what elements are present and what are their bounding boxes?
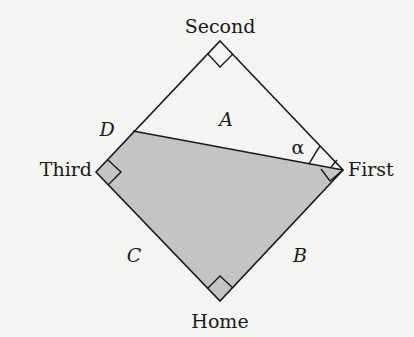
label-third: Third <box>40 158 92 180</box>
angle-label-alpha: α <box>292 136 305 158</box>
region-label-b: B <box>292 244 307 266</box>
right-angle-second <box>208 54 233 67</box>
region-label-c: C <box>127 244 142 266</box>
label-first: First <box>348 158 394 180</box>
label-second: Second <box>185 15 256 37</box>
shaded-region <box>96 131 343 301</box>
label-home: Home <box>191 310 248 332</box>
region-label-a: A <box>217 108 233 130</box>
point-label-d: D <box>98 118 114 140</box>
alpha-arc <box>309 146 320 164</box>
baseball-diamond-diagram: Second First Third Home A B C D α <box>0 0 414 337</box>
